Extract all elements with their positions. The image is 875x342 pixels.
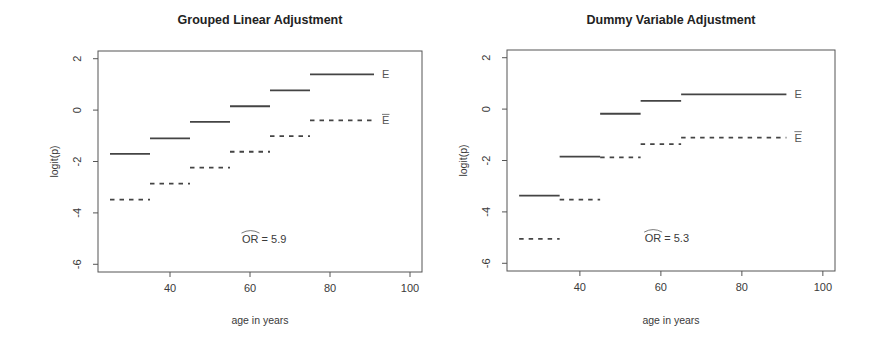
figure: Grouped Linear Adjustment age in years l… [0,0,875,342]
series-e-bar: E [519,132,802,239]
y-axis-label: logit(p) [48,145,60,177]
x-axis: 406080100 [164,272,419,294]
y-axis: 20-2-4-6 [480,55,507,269]
x-tick-label: 100 [401,282,419,294]
y-tick-label: -4 [480,207,492,217]
series-label: E [382,114,389,126]
y-tick-label: -2 [480,156,492,166]
x-axis-label: age in years [642,314,699,326]
plot-area: 40608010020-2-4-6EEOR = 5.9 [71,51,422,294]
chart-title: Dummy Variable Adjustment [586,13,756,27]
y-tick-label: 2 [480,55,492,61]
plot-area: 40608010020-2-4-6EEOR = 5.3 [480,50,835,293]
y-axis: 20-2-4-6 [71,56,98,270]
y-tick-label: 0 [71,107,83,113]
y-tick-label: -2 [71,157,83,167]
x-tick-label: 60 [244,282,256,294]
x-axis: 406080100 [574,271,832,293]
x-tick-label: 80 [736,281,748,293]
series-e: E [110,68,389,153]
y-tick-label: -6 [71,259,83,269]
series-label: E [794,88,801,100]
x-tick-label: 100 [814,281,832,293]
x-tick-label: 60 [655,281,667,293]
x-tick-label: 40 [574,281,586,293]
odds-ratio-annotation: OR = 5.9 [242,231,287,245]
x-tick-label: 40 [164,282,176,294]
y-tick-label: -6 [480,258,492,268]
y-tick-label: 2 [71,56,83,62]
x-tick-label: 80 [324,282,336,294]
odds-ratio-text: OR = 5.9 [242,233,286,245]
x-axis-label: age in years [231,314,288,326]
odds-ratio-annotation: OR = 5.3 [644,230,689,244]
series-e: E [519,88,802,195]
chart-dummy-variable-adjustment: Dummy Variable Adjustment age in years l… [457,13,835,326]
series-label: E [794,132,801,144]
chart-title: Grouped Linear Adjustment [178,13,344,27]
chart-grouped-linear-adjustment: Grouped Linear Adjustment age in years l… [48,13,422,326]
series-e-bar: E [110,114,390,199]
series-label: E [382,68,389,80]
y-tick-label: -4 [71,208,83,218]
y-axis-label: logit(p) [457,144,469,176]
y-tick-label: 0 [480,106,492,112]
odds-ratio-text: OR = 5.3 [645,232,689,244]
